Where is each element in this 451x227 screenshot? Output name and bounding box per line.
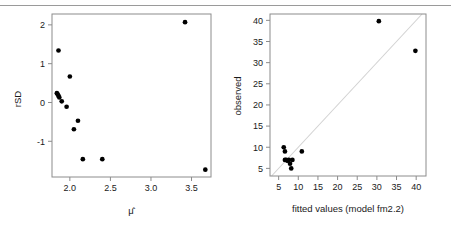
left-plot-points (55, 20, 208, 172)
x-tick-label: 30 (372, 182, 382, 192)
data-point (57, 95, 62, 100)
data-point (64, 104, 69, 109)
x-tick-label: 3.5 (185, 183, 198, 193)
y-tick-label: 30 (253, 58, 263, 68)
figure-root: 2.02.53.03.5-1012 μ̂ rSD 510152025303540… (0, 0, 451, 227)
x-tick-label: 15 (313, 182, 323, 192)
scatter-panel-rsd-vs-muhat: 2.02.53.03.5-1012 μ̂ rSD (0, 0, 228, 227)
y-tick-label: 1 (40, 59, 45, 69)
data-point (289, 166, 294, 171)
y-tick-label: 5 (258, 164, 263, 174)
y-tick-label: -1 (37, 137, 45, 147)
data-point (100, 157, 105, 162)
data-point (413, 48, 418, 53)
y-tick-label: 15 (253, 121, 263, 131)
x-tick-label: 2.5 (104, 183, 117, 193)
y-tick-label: 20 (253, 100, 263, 110)
left-plot-ticks: 2.02.53.03.5-1012 (37, 20, 198, 193)
data-point (283, 149, 288, 154)
right-plot-svg: 510152025303540510152025303540 fitted va… (228, 0, 451, 227)
data-point (203, 167, 208, 172)
data-point (56, 48, 61, 53)
data-point (76, 118, 81, 123)
left-y-axis-title: rSD (12, 91, 23, 108)
right-plot-refline (272, 14, 422, 176)
x-tick-label: 25 (352, 182, 362, 192)
y-tick-label: 40 (253, 16, 263, 26)
data-point (72, 127, 77, 132)
x-tick-label: 5 (276, 182, 281, 192)
x-tick-label: 10 (293, 182, 303, 192)
right-y-axis-title: observed (232, 76, 243, 115)
left-plot-svg: 2.02.53.03.5-1012 μ̂ rSD (0, 0, 228, 227)
y-tick-label: 0 (40, 98, 45, 108)
x-tick-label: 3.0 (145, 183, 158, 193)
plot-frame-box (52, 14, 211, 177)
data-point (376, 19, 381, 24)
data-point (281, 145, 286, 150)
right-x-axis-title: fitted values (model fm2.2) (292, 203, 404, 214)
data-point (59, 99, 64, 104)
x-tick-label: 40 (411, 182, 421, 192)
y-tick-label: 10 (253, 143, 263, 153)
data-point (290, 158, 295, 163)
data-point (183, 20, 188, 25)
x-tick-label: 2.0 (64, 183, 77, 193)
x-tick-label: 35 (392, 182, 402, 192)
right-plot-points (281, 19, 417, 171)
left-plot-frame (52, 14, 211, 177)
data-point (299, 149, 304, 154)
data-point (67, 74, 72, 79)
scatter-panel-observed-vs-fitted: 510152025303540510152025303540 fitted va… (228, 0, 451, 227)
y-tick-label: 25 (253, 79, 263, 89)
y-tick-label: 35 (253, 37, 263, 47)
data-point (80, 157, 85, 162)
left-x-axis-title: μ̂ (128, 205, 135, 216)
identity-reference-line (272, 14, 422, 176)
y-tick-label: 2 (40, 20, 45, 30)
x-tick-label: 20 (333, 182, 343, 192)
